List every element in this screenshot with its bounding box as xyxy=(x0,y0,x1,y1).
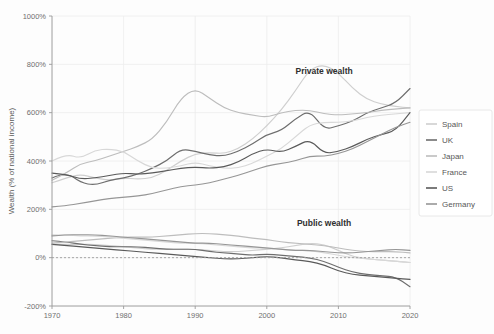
y-tick-label: -200% xyxy=(24,302,46,311)
series-line-uk-public xyxy=(52,241,410,287)
y-tick-label: 200% xyxy=(27,205,47,214)
axes xyxy=(49,16,410,309)
series-line-uk-private xyxy=(52,89,410,185)
x-axis-tick-labels: 197019801990200020102020 xyxy=(44,311,419,320)
y-axis-title: Wealth (% of national income) xyxy=(7,107,16,214)
x-tick-label: 1990 xyxy=(187,311,204,320)
legend[interactable]: SpainUKJapanFranceUSGermany xyxy=(419,110,492,216)
legend-label-uk: UK xyxy=(442,136,454,145)
x-tick-label: 2000 xyxy=(258,311,275,320)
x-tick-label: 2020 xyxy=(402,311,419,320)
annotation-private-wealth: Private wealth xyxy=(295,66,352,76)
annotation-public-wealth: Public wealth xyxy=(297,218,351,228)
y-tick-label: 0% xyxy=(35,253,46,262)
y-axis-title-label: Wealth (% of national income) xyxy=(7,107,16,214)
series-line-france-private xyxy=(52,113,410,169)
legend-label-japan: Japan xyxy=(442,152,464,161)
chart-container: -200%0%200%400%600%800%1000% 19701980199… xyxy=(0,0,494,334)
series-lines xyxy=(52,66,410,287)
gridlines xyxy=(52,16,410,306)
chart-annotations: Private wealthPublic wealth xyxy=(295,66,352,228)
legend-label-spain: Spain xyxy=(442,120,462,129)
x-tick-label: 2010 xyxy=(330,311,347,320)
y-tick-label: 400% xyxy=(27,157,47,166)
y-tick-label: 600% xyxy=(27,108,47,117)
legend-label-us: US xyxy=(442,184,453,193)
series-line-us-public xyxy=(52,244,410,279)
series-line-japan-private xyxy=(52,91,410,180)
y-tick-label: 1000% xyxy=(23,12,47,21)
x-tick-label: 1980 xyxy=(115,311,132,320)
y-axis-tick-labels: -200%0%200%400%600%800%1000% xyxy=(23,12,47,311)
legend-label-france: France xyxy=(442,168,467,177)
legend-label-germany: Germany xyxy=(442,200,475,209)
x-tick-label: 1970 xyxy=(44,311,61,320)
y-tick-label: 800% xyxy=(27,60,47,69)
wealth-line-chart: -200%0%200%400%600%800%1000% 19701980199… xyxy=(0,0,494,334)
